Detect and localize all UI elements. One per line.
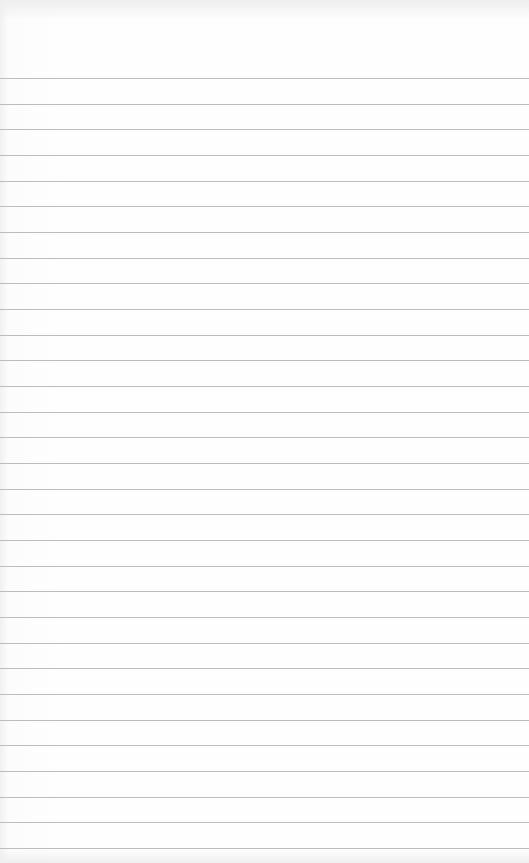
ruled-line [0,694,529,695]
ruled-line [0,771,529,772]
ruled-line [0,386,529,387]
ruled-line [0,283,529,284]
ruled-line [0,848,529,849]
ruled-line [0,463,529,464]
ruled-line [0,566,529,567]
ruled-line [0,104,529,105]
ruled-line [0,668,529,669]
ruled-line [0,643,529,644]
ruled-line [0,514,529,515]
ruled-line [0,155,529,156]
ruled-line [0,181,529,182]
ruled-line [0,437,529,438]
lined-paper-sheet [0,0,529,863]
ruled-line [0,129,529,130]
ruled-line [0,591,529,592]
ruled-line [0,720,529,721]
ruled-line [0,797,529,798]
ruled-line [0,258,529,259]
ruled-line [0,232,529,233]
ruled-line [0,617,529,618]
ruled-line [0,540,529,541]
ruled-line [0,745,529,746]
ruled-line [0,78,529,79]
ruled-line [0,335,529,336]
ruled-line [0,360,529,361]
ruled-line [0,822,529,823]
ruled-line [0,206,529,207]
ruled-line [0,489,529,490]
ruled-line [0,412,529,413]
top-edge-shadow [0,0,529,20]
ruled-line [0,309,529,310]
bottom-edge-shadow [0,849,529,863]
